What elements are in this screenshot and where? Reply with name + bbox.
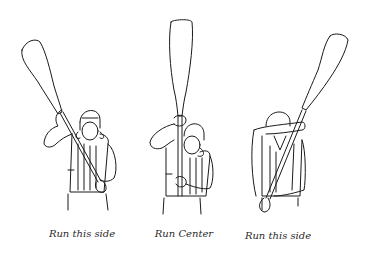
vest-left: [70, 134, 108, 192]
paddle-blade-left: [22, 40, 62, 114]
helmet-left: [80, 110, 100, 128]
figure-left-run-this-side: [22, 40, 116, 210]
signal-figures-drawing: [0, 0, 367, 256]
caption-run-this-side-left: Run this side: [49, 228, 115, 239]
paddle-blade-center: [170, 20, 193, 116]
paddle-signals-illustration: Run this side Run Center Run this side: [0, 0, 367, 256]
figure-right-run-this-side: [252, 34, 348, 212]
caption-run-center: Run Center: [155, 228, 213, 239]
figure-center-run-center: [150, 20, 213, 214]
arm-raised-center: [150, 124, 174, 149]
paddle-blade-right: [302, 34, 348, 110]
paddle-grip-right: [260, 198, 271, 212]
paddle-shaft-left: [60, 113, 98, 182]
arm-raised-left: [44, 110, 72, 147]
caption-run-this-side-right: Run this side: [245, 230, 311, 241]
